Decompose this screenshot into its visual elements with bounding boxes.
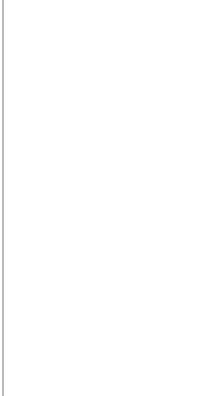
probability-tree-diagram bbox=[0, 0, 213, 396]
